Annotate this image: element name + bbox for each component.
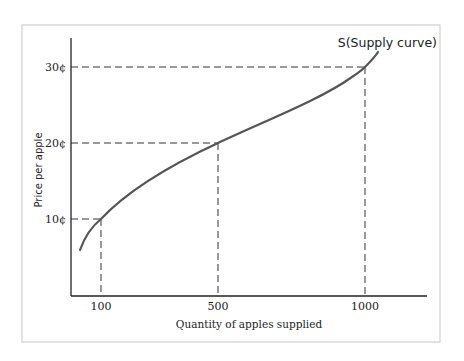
supply-curve-label: S(Supply curve) [338,35,437,50]
y-tick-label-20: 20¢ [45,137,66,150]
y-axis-title: Price per apple [33,132,44,207]
x-tick-label-100: 100 [91,300,112,313]
y-tick-label-10: 10¢ [45,213,66,226]
x-axis-title: Quantity of apples supplied [176,318,323,330]
supply-curve-chart: 30¢ 20¢ 10¢ 100 500 1000 Quantity of app… [0,0,464,361]
y-tick-label-30: 30¢ [45,61,66,74]
chart-frame [22,25,440,342]
x-tick-label-500: 500 [208,300,229,313]
x-tick-label-1000: 1000 [351,300,379,313]
